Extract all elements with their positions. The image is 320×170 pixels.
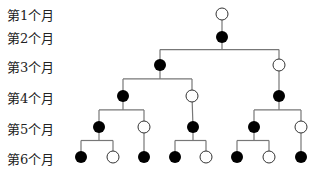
open-circle-icon <box>138 121 150 133</box>
filled-circle-icon <box>75 151 87 163</box>
filled-circle-icon <box>169 151 181 163</box>
open-circle-icon <box>200 151 212 163</box>
filled-circle-icon <box>138 151 150 163</box>
filled-circle-icon <box>93 121 105 133</box>
filled-circle-icon <box>154 59 166 71</box>
rabbit-pair-tree-diagram <box>0 0 320 170</box>
filled-circle-icon <box>295 151 307 163</box>
filled-circle-icon <box>117 90 129 102</box>
open-circle-icon <box>273 59 285 71</box>
open-circle-icon <box>186 90 198 102</box>
open-circle-icon <box>263 151 275 163</box>
filled-circle-icon <box>248 121 260 133</box>
filled-circle-icon <box>231 151 243 163</box>
filled-circle-icon <box>216 31 228 43</box>
open-circle-icon <box>216 8 228 20</box>
tree-edges <box>81 14 301 157</box>
open-circle-icon <box>107 151 119 163</box>
filled-circle-icon <box>273 90 285 102</box>
filled-circle-icon <box>187 121 199 133</box>
open-circle-icon <box>295 121 307 133</box>
tree-nodes <box>75 8 307 163</box>
